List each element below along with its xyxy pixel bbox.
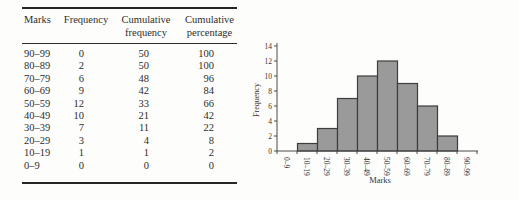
column-header: Cumulativepercentage <box>182 9 237 44</box>
x-tick-label: 60–69 <box>402 157 411 176</box>
y-tick-label: 14 <box>265 42 273 51</box>
table-cell: 6 <box>62 73 110 85</box>
table-cell: 2 <box>62 60 110 72</box>
table-row: 70–7964896 <box>22 73 237 85</box>
table-row: 30–3971122 <box>22 122 237 134</box>
table-header-row: MarksFrequencyCumulativefrequencyCumulat… <box>22 9 237 44</box>
table-cell: 0–9 <box>22 160 62 172</box>
table-cell: 84 <box>182 85 237 97</box>
table-cell: 4 <box>110 135 182 147</box>
table-cell: 90–99 <box>22 44 62 61</box>
table-cell: 9 <box>62 85 110 97</box>
table-cell: 100 <box>182 60 237 72</box>
table-row: 0–9000 <box>22 160 237 172</box>
table-cell: 1 <box>62 147 110 159</box>
table-cell: 66 <box>182 98 237 110</box>
table-cell: 70–79 <box>22 73 62 85</box>
histogram-bar <box>358 76 378 151</box>
table-cell: 3 <box>62 135 110 147</box>
histogram-bar <box>318 129 338 152</box>
table-cell: 50 <box>110 60 182 72</box>
x-tick-label: 0–9 <box>282 157 291 169</box>
table-cell: 2 <box>182 147 237 159</box>
table-cell: 21 <box>110 110 182 122</box>
histogram-bar <box>418 106 438 151</box>
table-row: 20–29348 <box>22 135 237 147</box>
table-cell: 40–49 <box>22 110 62 122</box>
table-cell: 42 <box>182 110 237 122</box>
x-axis-title: Marks <box>369 175 391 185</box>
table-cell: 50–59 <box>22 98 62 110</box>
y-tick-label: 0 <box>268 147 272 156</box>
y-tick-label: 2 <box>268 132 272 141</box>
y-tick-label: 8 <box>268 87 272 96</box>
table-cell: 0 <box>110 160 182 172</box>
table-body: 90–9905010080–8925010070–796489660–69942… <box>22 44 237 173</box>
frequency-table: MarksFrequencyCumulativefrequencyCumulat… <box>22 7 237 184</box>
table-cell: 48 <box>110 73 182 85</box>
table-cell: 96 <box>182 73 237 85</box>
x-tick-label: 50–59 <box>382 157 391 176</box>
x-tick-label: 30–39 <box>342 157 351 176</box>
x-tick-label: 10–19 <box>302 157 311 176</box>
table-cell: 1 <box>110 147 182 159</box>
histogram-chart: Frequency Marks 024681012140–910–1920–29… <box>250 36 516 198</box>
y-tick-label: 10 <box>265 72 273 81</box>
table-cell: 10 <box>62 110 110 122</box>
histogram-bar <box>398 84 418 152</box>
table-cell: 30–39 <box>22 122 62 134</box>
table-cell: 60–69 <box>22 85 62 97</box>
table-row: 10–19112 <box>22 147 237 159</box>
histogram-bar <box>338 99 358 152</box>
table-cell: 22 <box>182 122 237 134</box>
table-cell: 0 <box>62 44 110 61</box>
table-row: 60–6994284 <box>22 85 237 97</box>
y-tick-label: 12 <box>265 57 273 66</box>
y-tick-label: 6 <box>268 102 272 111</box>
column-header: Marks <box>22 9 62 44</box>
table-cell: 0 <box>62 160 110 172</box>
table-cell: 42 <box>110 85 182 97</box>
y-tick-label: 4 <box>268 117 272 126</box>
table-cell: 10–19 <box>22 147 62 159</box>
x-tick-label: 70–79 <box>422 157 431 176</box>
table-cell: 20–29 <box>22 135 62 147</box>
table-cell: 100 <box>182 44 237 61</box>
table-row: 40–49102142 <box>22 110 237 122</box>
table-cell: 12 <box>62 98 110 110</box>
column-header: Cumulativefrequency <box>110 9 182 44</box>
table-cell: 33 <box>110 98 182 110</box>
table-cell: 8 <box>182 135 237 147</box>
table-cell: 11 <box>110 122 182 134</box>
y-axis-title: Frequency <box>252 83 261 117</box>
marks-frequency-table: MarksFrequencyCumulativefrequencyCumulat… <box>22 9 237 172</box>
table-cell: 50 <box>110 44 182 61</box>
x-tick-label: 80–89 <box>442 157 451 176</box>
histogram-bar <box>378 61 398 151</box>
column-header: Frequency <box>62 9 110 44</box>
histogram-svg: Frequency Marks 024681012140–910–1920–29… <box>250 36 516 198</box>
table-row: 80–89250100 <box>22 60 237 72</box>
table-cell: 80–89 <box>22 60 62 72</box>
table-row: 50–59123366 <box>22 98 237 110</box>
x-tick-label: 20–29 <box>322 157 331 176</box>
x-tick-label: 90–99 <box>462 157 471 176</box>
table-row: 90–99050100 <box>22 44 237 61</box>
table-cell: 0 <box>182 160 237 172</box>
histogram-bar <box>298 144 318 152</box>
table-cell: 7 <box>62 122 110 134</box>
histogram-bar <box>438 136 458 151</box>
x-tick-label: 40–49 <box>362 157 371 176</box>
